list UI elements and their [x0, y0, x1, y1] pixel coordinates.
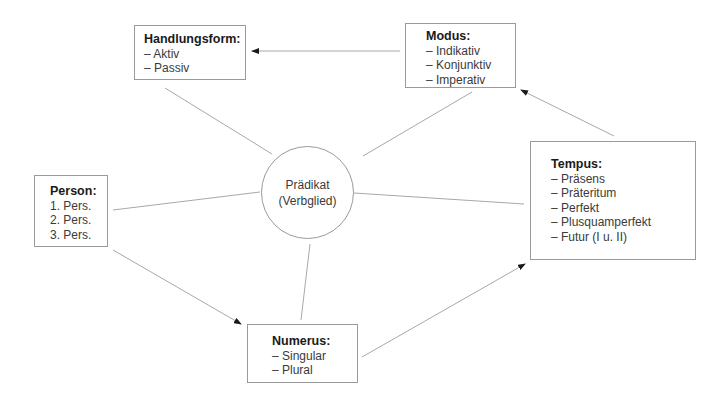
edge-center-modus [363, 92, 472, 156]
edge-center-handlungsform [165, 88, 272, 154]
node-title: Person: [50, 184, 107, 199]
node-numerus: Numerus: – Singular – Plural [247, 324, 358, 383]
center-node-praedikat: Prädikat (Verbglied) [261, 146, 354, 239]
node-item: – Plusquamperfekt [551, 215, 695, 230]
node-handlungsform: Handlungsform: – Aktiv – Passiv [134, 25, 246, 80]
node-item: – Präsens [551, 172, 695, 187]
node-item: – Konjunktiv [426, 58, 515, 73]
edge-center-person [113, 192, 260, 210]
arrow-person-to-numerus [113, 250, 241, 324]
arrow-tempus-to-modus [521, 90, 614, 136]
node-item: – Futur (I u. II) [551, 230, 695, 245]
edge-center-numerus [301, 244, 310, 320]
node-item: – Aktiv [144, 47, 245, 62]
node-item: – Indikativ [426, 44, 515, 59]
node-item: 2. Pers. [50, 213, 107, 228]
node-item: – Perfekt [551, 201, 695, 216]
node-item: – Passiv [144, 61, 245, 76]
node-person: Person: 1. Pers. 2. Pers. 3. Pers. [34, 175, 108, 247]
center-label-line1: Prädikat [285, 177, 329, 193]
node-item: – Imperativ [426, 73, 515, 88]
node-item: 1. Pers. [50, 199, 107, 214]
edge-center-tempus [354, 193, 524, 204]
center-label-line2: (Verbglied) [278, 193, 336, 209]
node-item: – Plural [272, 363, 357, 378]
node-item: – Präteritum [551, 186, 695, 201]
node-title: Numerus: [272, 334, 357, 349]
node-item: – Singular [272, 349, 357, 364]
node-tempus: Tempus: – Präsens – Präteritum – Perfekt… [530, 141, 696, 260]
node-title: Modus: [426, 29, 515, 44]
node-title: Tempus: [551, 157, 695, 172]
node-title: Handlungsform: [144, 32, 245, 47]
node-item: 3. Pers. [50, 228, 107, 243]
node-modus: Modus: – Indikativ – Konjunktiv – Impera… [405, 23, 516, 88]
arrow-numerus-to-tempus [362, 264, 525, 357]
